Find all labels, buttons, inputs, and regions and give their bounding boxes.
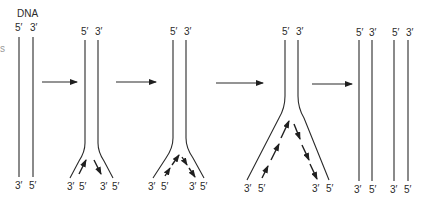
- panel-1-strands: [19, 37, 33, 177]
- new-strand-arrow-up-2: [172, 155, 179, 165]
- dna-title: DNA: [17, 9, 38, 19]
- dna-replication-diagram: s DNA 5′ 3′ 3′ 5′ 5′ 3′ 3′ 5′ 3′ 5′ 5′ 3…: [0, 0, 425, 210]
- p2-bottom-label-3: 3′: [100, 182, 107, 192]
- new-strand-arrow-down-3: [310, 164, 317, 179]
- p2-top-label-2: 3′: [95, 27, 102, 37]
- p1-top-label-1: 5′: [15, 23, 22, 33]
- p4-bottom-label-4: 5′: [326, 184, 333, 194]
- strand-right: [186, 40, 204, 178]
- p5-bottom-label-3: 3′: [390, 185, 397, 195]
- strand-right: [98, 40, 113, 178]
- p5-top-label-1: 5′: [356, 28, 363, 38]
- p5-top-label-4: 3′: [406, 28, 413, 38]
- p3-top-label-2: 3′: [184, 27, 191, 37]
- p4-bottom-label-1: 3′: [244, 184, 251, 194]
- p5-top-label-2: 3′: [369, 28, 376, 38]
- new-strand-arrow-down-2: [302, 145, 309, 160]
- p5-bottom-label-2: 5′: [369, 185, 376, 195]
- p4-top-label-1: 5′: [282, 27, 289, 37]
- strand-left: [70, 40, 85, 178]
- p4-bottom-label-3: 3′: [312, 184, 319, 194]
- panel-3-strands: [153, 40, 204, 178]
- strand-left: [247, 40, 285, 180]
- new-strand-arrow-up-2: [271, 144, 279, 160]
- p2-bottom-label-2: 5′: [79, 182, 86, 192]
- p5-top-label-3: 5′: [392, 28, 399, 38]
- new-strand-arrow-up-3: [281, 121, 289, 138]
- p3-bottom-label-3: 3′: [189, 182, 196, 192]
- new-strand-arrow-down-1: [294, 124, 300, 139]
- panel-2-strands: [70, 40, 113, 178]
- p3-bottom-label-4: 5′: [200, 182, 207, 192]
- p5-bottom-label-1: 3′: [354, 185, 361, 195]
- p2-top-label-1: 5′: [81, 27, 88, 37]
- new-strand-arrow-up-1: [165, 168, 170, 176]
- p1-bottom-label-2: 5′: [29, 181, 36, 191]
- p2-bottom-label-4: 5′: [112, 182, 119, 192]
- p3-top-label-1: 5′: [170, 27, 177, 37]
- panel-5-strands: [359, 40, 408, 181]
- new-strand-arrow-up-1: [262, 166, 268, 178]
- panel-4-strands: [247, 40, 329, 180]
- new-strand-arrow-down-1: [182, 157, 187, 165]
- p2-bottom-label-1: 3′: [67, 182, 74, 192]
- p1-top-label-2: 3′: [30, 23, 37, 33]
- p1-bottom-label-1: 3′: [15, 181, 22, 191]
- p4-top-label-2: 3′: [296, 27, 303, 37]
- strand-right: [298, 40, 329, 180]
- new-strand-arrow-down: [94, 160, 101, 174]
- strand-left: [153, 40, 173, 178]
- edge-fragment-text: s: [0, 44, 5, 54]
- p3-bottom-label-2: 5′: [161, 182, 168, 192]
- p4-bottom-label-2: 5′: [258, 184, 265, 194]
- new-strand-arrow-up: [79, 160, 86, 174]
- p3-bottom-label-1: 3′: [148, 182, 155, 192]
- p5-bottom-label-4: 5′: [404, 185, 411, 195]
- new-strand-arrow-down-2: [189, 168, 195, 177]
